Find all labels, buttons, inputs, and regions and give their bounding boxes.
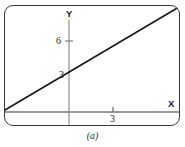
y-tick-label-6: 6 [56, 36, 61, 46]
x-tick-label-3: 3 [110, 114, 115, 124]
figure-caption: (a) [0, 130, 185, 141]
x-axis-label: X [168, 99, 174, 109]
y-axis-label: Y [66, 9, 72, 19]
figure-container: Y X 6 3 3 (a) [0, 0, 185, 147]
y-tick-label-3: 3 [59, 70, 64, 80]
data-line [5, 7, 179, 110]
plot-graphics [0, 0, 185, 147]
